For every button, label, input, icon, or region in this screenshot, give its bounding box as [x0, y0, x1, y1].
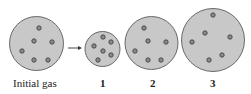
gas-particle-icon: [146, 58, 150, 62]
label-container-3: 3: [210, 77, 216, 89]
gas-particle-icon: [203, 31, 207, 35]
label-initial-gas: Initial gas: [13, 77, 57, 89]
gas-particle-icon: [101, 35, 105, 39]
gas-particle-icon: [228, 35, 232, 39]
gas-particle-icon: [46, 58, 50, 62]
container-circle: [10, 17, 64, 71]
gas-particle-icon: [101, 49, 105, 53]
gas-particle-icon: [146, 39, 150, 43]
container-circle: [125, 17, 178, 70]
gas-particle-icon: [207, 58, 211, 62]
gas-particle-icon: [20, 49, 24, 53]
gas-particle-icon: [92, 44, 96, 48]
gas-particle-icon: [32, 58, 36, 62]
arrow-icon: [68, 46, 82, 50]
gas-particle-icon: [211, 13, 215, 17]
gas-particle-icon: [109, 40, 113, 44]
gas-particle-icon: [142, 26, 146, 30]
gas-particle-icon: [190, 40, 194, 44]
gas-container-3: [182, 9, 245, 72]
gas-particle-icon: [109, 53, 113, 57]
gas-particle-icon: [50, 40, 54, 44]
label-container-1: 1: [100, 77, 106, 89]
gas-container-1: [85, 32, 120, 67]
containers-group: [10, 9, 245, 72]
gas-particle-icon: [96, 58, 100, 62]
gas-particle-icon: [133, 49, 137, 53]
gas-container-2: [125, 17, 178, 70]
gas-particle-icon: [164, 40, 168, 44]
gas-particle-icon: [32, 39, 36, 43]
gas-particle-icon: [220, 53, 224, 57]
gas-particle-icon: [159, 58, 163, 62]
label-container-2: 2: [150, 77, 156, 89]
gas-container-initial: [10, 17, 64, 71]
gas-particle-icon: [37, 26, 41, 30]
